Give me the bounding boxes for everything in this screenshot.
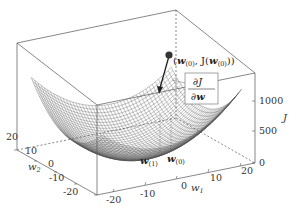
y-axis-label: w2 [28, 161, 41, 174]
z-tick-500: 500 [259, 125, 277, 136]
z-tick-0: 0 [259, 157, 265, 168]
x-tick-0: 0 [181, 180, 187, 191]
w0-projection-label: w(0) [167, 153, 185, 166]
cost-surface-figure: 0 500 1000 J -20 -10 0 10 20 w1 20 10 0 … [0, 0, 297, 214]
y-tick-neg20: -20 [63, 186, 78, 197]
x-tick-neg10: -10 [140, 188, 155, 199]
z-axis-label: J [281, 112, 288, 123]
axis-box-back [17, 10, 255, 163]
y-tick-10: 10 [25, 145, 37, 156]
x-tick-20: 20 [241, 165, 253, 176]
x-tick-neg20: -20 [106, 194, 121, 205]
y-tick-20: 20 [6, 131, 18, 142]
y-tick-0: 0 [48, 158, 54, 169]
x-axis-label: w1 [191, 182, 204, 195]
z-axis-ticks [252, 101, 255, 163]
current-point-marker [165, 51, 172, 58]
y-tick-neg10: -10 [49, 172, 64, 183]
surface-plot: 0 500 1000 J -20 -10 0 10 20 w1 20 10 0 … [0, 0, 297, 214]
z-tick-1000: 1000 [259, 95, 283, 106]
gradient-denominator: ∂w [191, 91, 205, 102]
gradient-numerator: ∂J [193, 76, 203, 87]
x-tick-10: 10 [210, 172, 222, 183]
point-label: (w(0), J(w(0))) [173, 55, 235, 68]
